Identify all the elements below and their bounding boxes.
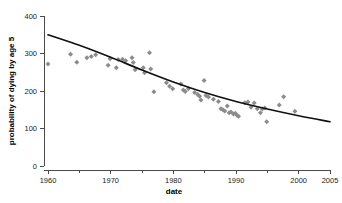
data-point bbox=[211, 97, 216, 102]
data-point bbox=[216, 99, 221, 104]
x-axis-title: date bbox=[166, 187, 183, 196]
data-point bbox=[46, 62, 51, 67]
axes bbox=[40, 16, 330, 174]
data-point bbox=[74, 60, 79, 65]
y-axis-tick-labels: 0100200300400 bbox=[24, 12, 37, 171]
data-point bbox=[202, 78, 207, 83]
chart-container: 0100200300400 196019701980199020002005 d… bbox=[0, 0, 342, 203]
data-point bbox=[277, 102, 282, 107]
y-tick-label: 0 bbox=[33, 162, 37, 171]
y-tick-label: 100 bbox=[24, 124, 37, 133]
data-points bbox=[46, 50, 298, 124]
data-point bbox=[292, 109, 297, 114]
x-axis-ticks bbox=[48, 170, 330, 174]
data-point bbox=[264, 119, 269, 124]
y-axis-ticks bbox=[40, 16, 44, 166]
x-tick-label: 1980 bbox=[165, 176, 182, 185]
data-point bbox=[68, 52, 73, 57]
x-tick-label: 1970 bbox=[102, 176, 119, 185]
data-point bbox=[281, 94, 286, 99]
data-point bbox=[114, 65, 119, 70]
data-point bbox=[151, 89, 156, 94]
x-axis-tick-labels: 196019701980199020002005 bbox=[40, 176, 339, 185]
data-point bbox=[225, 104, 230, 109]
y-tick-label: 300 bbox=[24, 49, 37, 58]
y-tick-label: 400 bbox=[24, 12, 37, 21]
x-tick-label: 2000 bbox=[290, 176, 307, 185]
y-axis-title: probability of dying by age 5 bbox=[7, 36, 16, 145]
data-point bbox=[106, 63, 111, 68]
trend-line bbox=[48, 35, 330, 122]
data-point bbox=[129, 55, 134, 60]
data-point bbox=[84, 55, 89, 60]
data-point bbox=[147, 50, 152, 55]
x-tick-label: 1960 bbox=[40, 176, 57, 185]
data-point bbox=[131, 60, 136, 65]
scatter-plot: 0100200300400 196019701980199020002005 d… bbox=[0, 0, 342, 203]
x-tick-label: 1990 bbox=[228, 176, 245, 185]
data-point bbox=[148, 66, 153, 71]
data-point bbox=[89, 54, 94, 59]
y-tick-label: 200 bbox=[24, 87, 37, 96]
x-tick-label: 2005 bbox=[322, 176, 339, 185]
